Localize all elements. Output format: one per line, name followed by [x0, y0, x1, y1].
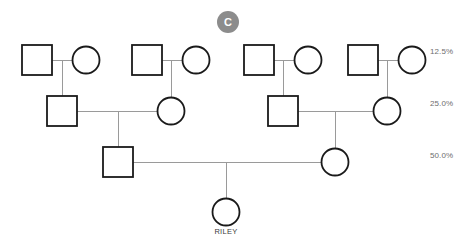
relatedness-percentage-label: 25.0% [430, 99, 453, 108]
person-symbol-male[interactable] [47, 96, 77, 126]
person-symbol-male[interactable] [268, 96, 298, 126]
person-symbol-female[interactable] [295, 47, 322, 74]
person-symbol-female[interactable] [399, 47, 426, 74]
person-name-label: RILEY [186, 227, 266, 236]
relatedness-percentage-label: 12.5% [430, 47, 453, 56]
person-symbol-female[interactable] [213, 199, 240, 226]
relatedness-percentage-label: 50.0% [430, 151, 453, 160]
cousin-degree-badge[interactable]: C [217, 11, 239, 33]
person-symbol-female[interactable] [322, 149, 349, 176]
person-symbol-male[interactable] [132, 45, 162, 75]
person-symbol-male[interactable] [348, 45, 378, 75]
person-symbol-male[interactable] [103, 147, 133, 177]
person-symbol-male[interactable] [244, 45, 274, 75]
person-symbols-group [22, 45, 426, 226]
person-symbol-female[interactable] [73, 47, 100, 74]
pedigree-diagram-canvas [0, 0, 470, 249]
person-symbol-male[interactable] [22, 45, 52, 75]
person-symbol-female[interactable] [374, 98, 401, 125]
pedigree-chart: C 12.5%25.0%50.0% RILEY [0, 0, 470, 249]
person-symbol-female[interactable] [183, 47, 210, 74]
person-symbol-female[interactable] [158, 98, 185, 125]
